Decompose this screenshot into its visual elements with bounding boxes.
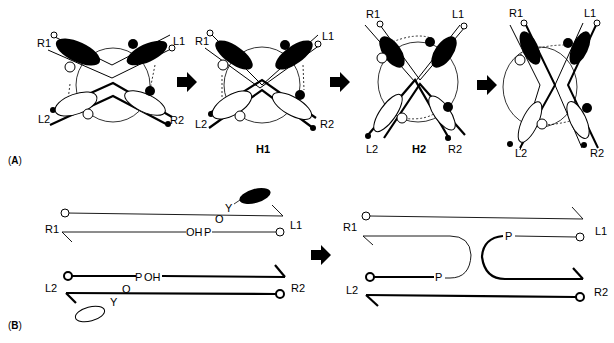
panel-label-a: (A) xyxy=(8,155,22,166)
chem-o-top: O xyxy=(215,213,224,225)
strand-label-r2: R2 xyxy=(448,143,462,155)
strand-label-l2: L2 xyxy=(515,147,527,159)
chem-oh-bottom: OH xyxy=(144,271,161,283)
strand-label-r1: R1 xyxy=(343,221,357,233)
stage-2-h1: R1 L1 L2 R2 H1 xyxy=(195,30,334,155)
stage-4-product: R1 L1 L2 R2 xyxy=(503,7,604,159)
strand-label-r1: R1 xyxy=(509,7,523,19)
panel-b-before: OH P O Y P OH O Y R1 L1 L2 R2 xyxy=(45,185,305,325)
chem-y-top: Y xyxy=(225,202,233,214)
strand-label-r1: R1 xyxy=(37,37,51,49)
chem-oh-top: OH xyxy=(186,226,203,238)
chem-y-bottom: Y xyxy=(110,296,118,308)
strand-label-l2: L2 xyxy=(195,118,207,130)
strand-label-l2: L2 xyxy=(346,284,358,296)
strand-label-r1: R1 xyxy=(45,223,59,235)
strand-label-r2: R2 xyxy=(590,147,604,159)
strand-label-l2: L2 xyxy=(366,143,378,155)
chem-p-bottom-after: P xyxy=(435,271,442,283)
panel-b-after: P P R1 L1 L2 R2 xyxy=(343,207,608,306)
strand-label-l1: L1 xyxy=(584,7,596,19)
strand-label-l1: L1 xyxy=(322,30,334,42)
recombinase-filled-icon xyxy=(238,185,273,207)
panel-label-b: (B) xyxy=(8,320,22,331)
chem-p-bottom: P xyxy=(135,271,142,283)
recombinase-open-icon xyxy=(74,303,107,324)
chem-p-top-after: P xyxy=(505,230,512,242)
strand-label-l2: L2 xyxy=(38,113,50,125)
strand-label-l1: L1 xyxy=(595,225,607,237)
strand-label-l1: L1 xyxy=(452,8,464,20)
strand-label-l2: L2 xyxy=(45,282,57,294)
strand-label-l1: L1 xyxy=(290,219,302,231)
recombination-diagram: R1 L1 L2 R2 R1 L1 L2 R2 H1 xyxy=(0,0,614,343)
arrow-right-icon xyxy=(477,75,497,95)
chem-p-top: P xyxy=(204,226,211,238)
strand-label-r2: R2 xyxy=(320,118,334,130)
strand-label-r1: R1 xyxy=(195,35,209,47)
chem-o-bottom: O xyxy=(122,283,131,295)
stage-1-synapse: R1 L1 L2 R2 xyxy=(37,32,185,127)
arrow-right-icon xyxy=(311,245,331,265)
stage-caption-h2: H2 xyxy=(412,143,426,155)
arrow-right-icon xyxy=(177,72,197,92)
strand-label-r1: R1 xyxy=(366,8,380,20)
stage-3-h2: R1 L1 L2 R2 H2 xyxy=(365,8,467,155)
strand-label-r2: R2 xyxy=(170,114,184,126)
arrow-right-icon xyxy=(330,72,350,92)
strand-label-l1: L1 xyxy=(173,35,185,47)
stage-caption-h1: H1 xyxy=(256,143,270,155)
strand-label-r2: R2 xyxy=(291,282,305,294)
strand-label-r2: R2 xyxy=(594,286,608,298)
